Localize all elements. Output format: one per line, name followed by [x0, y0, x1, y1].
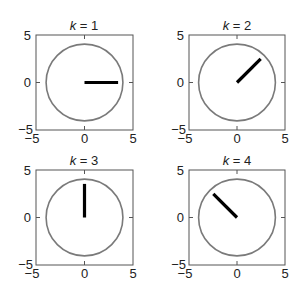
x-tick-label-zero: 0: [81, 131, 88, 146]
y-tick-label-pos: 5: [177, 28, 184, 43]
x-tick-label-pos: 5: [129, 266, 136, 281]
x-tick-label-zero: 0: [233, 131, 240, 146]
panel-k1: k = 1 5 0 −5 −5 0 5: [18, 18, 136, 146]
panel-k3: k = 3 5 0 −5 −5 0 5: [18, 153, 136, 281]
panel-title: k = 2: [223, 18, 252, 33]
y-tick-label-zero: 0: [24, 210, 31, 225]
x-tick-label-pos: 5: [281, 266, 288, 281]
y-tick-label-pos: 5: [24, 163, 31, 178]
x-tick-label-pos: 5: [129, 131, 136, 146]
x-tick-label-neg: −5: [178, 131, 193, 146]
x-tick-label-neg: −5: [25, 266, 40, 281]
y-tick-label-pos: 5: [24, 28, 31, 43]
panel-title: k = 4: [223, 153, 252, 168]
y-tick-label-zero: 0: [24, 75, 31, 90]
x-tick-label-neg: −5: [178, 266, 193, 281]
panel-k2: k = 2 5 0 −5 −5 0 5: [171, 18, 288, 146]
y-tick-label-pos: 5: [177, 163, 184, 178]
x-tick-label-pos: 5: [281, 131, 288, 146]
panel-k4: k = 4 5 0 −5 −5 0 5: [171, 153, 288, 281]
needle: [237, 59, 261, 83]
needle: [213, 194, 237, 218]
panel-title: k = 1: [70, 18, 99, 33]
x-tick-label-zero: 0: [81, 266, 88, 281]
y-tick-label-zero: 0: [177, 75, 184, 90]
figure: k = 1 5 0 −5 −5 0 5 k = 2 5 0 −5 −5 0 5 …: [0, 0, 300, 292]
panel-title: k = 3: [70, 153, 99, 168]
x-tick-label-neg: −5: [25, 131, 40, 146]
x-tick-label-zero: 0: [233, 266, 240, 281]
y-tick-label-zero: 0: [177, 210, 184, 225]
